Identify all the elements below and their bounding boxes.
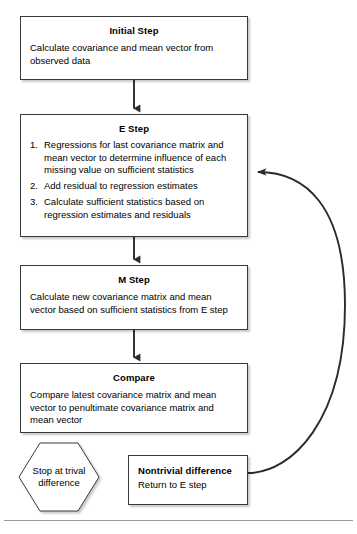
node-e-step-list: Regressions for last covariance matrix a… — [30, 139, 238, 222]
node-stop-terminator-label: Stop at trival difference — [18, 442, 100, 512]
node-m-step-body: Calculate new covariance matrix and mean… — [30, 291, 238, 316]
node-nontrivial-difference: Nontrivial difference Return to E step — [128, 455, 248, 505]
node-compare-title: Compare — [30, 371, 238, 384]
node-initial-step-title: Initial Step — [30, 24, 238, 37]
node-nontrivial-difference-title: Nontrivial difference — [138, 464, 238, 477]
node-e-step-list-item: Regressions for last covariance matrix a… — [30, 139, 238, 177]
node-initial-step: Initial Step Calculate covariance and me… — [20, 16, 248, 80]
flowchart-diagram: Initial Step Calculate covariance and me… — [0, 0, 357, 534]
node-e-step-title: E Step — [30, 122, 238, 135]
node-stop-terminator: Stop at trival difference — [18, 442, 100, 512]
node-compare-body: Compare latest covariance matrix and mea… — [30, 389, 238, 427]
node-e-step: E Step Regressions for last covariance m… — [20, 114, 248, 237]
node-initial-step-body: Calculate covariance and mean vector fro… — [30, 42, 238, 67]
node-e-step-list-item: Calculate sufficient statistics based on… — [30, 196, 238, 221]
node-e-step-list-item: Add residual to regression estimates — [30, 180, 238, 193]
connector-nontrivial-to-estep — [248, 172, 345, 473]
node-m-step: M Step Calculate new covariance matrix a… — [20, 265, 248, 330]
node-compare: Compare Compare latest covariance matrix… — [20, 363, 248, 433]
node-m-step-title: M Step — [30, 273, 238, 286]
node-nontrivial-difference-body: Return to E step — [138, 479, 238, 492]
